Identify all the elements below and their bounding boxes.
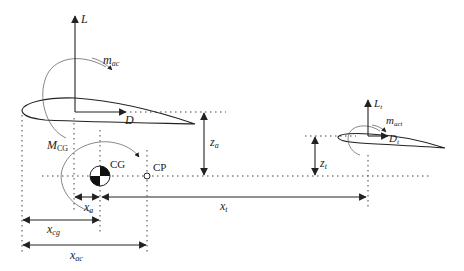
x-cg-label: xcg — [46, 222, 60, 237]
x-t-label: xt — [219, 199, 228, 214]
z-t-label: zt — [319, 156, 328, 171]
aircraft-force-diagram: L D mac MCG CG CP za zt Lt Dt — [0, 0, 464, 271]
z-a-label: za — [209, 135, 219, 150]
tail-moment-arc — [348, 126, 380, 155]
z-a-dimension: za — [204, 113, 219, 175]
cg-moment-label: MCG — [46, 138, 68, 153]
wing-moment-label: mac — [103, 53, 120, 68]
x-ac-label: xac — [69, 248, 83, 263]
main-wing: L D mac — [22, 12, 195, 138]
wing-drag-label: D — [124, 113, 134, 127]
tail-moment-label: mact — [386, 114, 404, 128]
tail-drag-label: Dt — [388, 132, 400, 146]
cg-label: CG — [110, 158, 125, 170]
x-ac-dimension: xac — [23, 245, 146, 263]
wing-lift-label: L — [80, 12, 88, 26]
x-cg-dimension: xcg — [23, 220, 99, 237]
reference-lines — [22, 112, 432, 255]
x-a-label: xa — [83, 200, 93, 215]
x-t-dimension: xt — [102, 197, 366, 214]
tail-lift-label: Lt — [373, 97, 383, 111]
z-t-dimension: zt — [315, 137, 328, 175]
cp-label: CP — [153, 161, 166, 173]
cg-symbol: CG — [90, 158, 125, 186]
wing-airfoil — [22, 98, 195, 124]
tail-moment-arrow — [372, 125, 386, 132]
horizontal-tail: Lt Dt mact — [338, 97, 445, 155]
